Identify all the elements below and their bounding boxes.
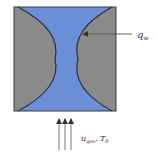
- inflow-label: ugas, T0: [81, 134, 109, 145]
- inflow-arrows: [59, 119, 71, 150]
- heat-flux-label: qw: [137, 29, 149, 41]
- diagram-canvas: qw ugas, T0: [0, 0, 156, 154]
